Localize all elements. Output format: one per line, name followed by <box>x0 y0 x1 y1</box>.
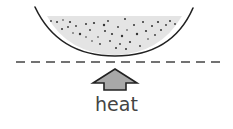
liquid-fill <box>47 16 182 55</box>
up-arrow-icon <box>93 69 137 90</box>
heat-label: heat <box>0 93 233 115</box>
heating-diagram: heat <box>0 0 233 129</box>
